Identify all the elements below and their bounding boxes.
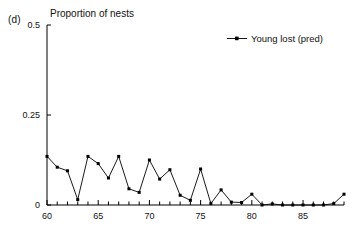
data-point-marker — [97, 162, 100, 165]
legend-line-marker-icon — [227, 34, 247, 43]
axis-lines — [47, 25, 344, 205]
series-line-young-lost-pred — [47, 156, 344, 205]
legend-label-young-lost-pred: Young lost (pred) — [251, 33, 323, 44]
data-point-marker — [240, 201, 243, 204]
data-point-marker — [271, 202, 274, 205]
data-point-marker — [250, 193, 253, 196]
chart-page: (d) Proportion of nests 0.5 0.25 0 Young… — [0, 0, 351, 240]
data-point-marker — [76, 198, 79, 201]
data-point-marker — [291, 204, 294, 207]
x-axis-tick-label: 85 — [291, 211, 315, 221]
data-point-marker — [199, 168, 202, 171]
data-point-marker — [127, 187, 130, 190]
data-point-marker — [343, 193, 346, 196]
data-point-marker — [158, 178, 161, 181]
data-point-marker — [261, 204, 264, 207]
data-point-marker — [332, 202, 335, 205]
y-axis-ticks — [47, 25, 51, 205]
x-axis-tick-label: 65 — [86, 211, 110, 221]
legend: Young lost (pred) — [227, 33, 323, 44]
data-point-marker — [107, 177, 110, 180]
data-point-marker — [312, 204, 315, 207]
data-point-marker — [189, 199, 192, 202]
data-point-marker — [168, 168, 171, 171]
data-point-marker — [117, 155, 120, 158]
data-point-marker — [322, 204, 325, 207]
x-axis-tick-label: 60 — [35, 211, 59, 221]
data-point-marker — [302, 204, 305, 207]
series-markers-young-lost-pred — [46, 155, 346, 207]
data-point-marker — [66, 169, 69, 172]
data-point-marker — [179, 194, 182, 197]
data-point-marker — [220, 188, 223, 191]
data-point-marker — [230, 201, 233, 204]
data-point-marker — [138, 191, 141, 194]
data-point-marker — [86, 155, 89, 158]
x-axis-tick-label: 80 — [240, 211, 264, 221]
data-point-marker — [209, 202, 212, 205]
x-axis-tick-label: 75 — [189, 211, 213, 221]
data-point-marker — [281, 204, 284, 207]
data-point-marker — [46, 155, 49, 158]
data-point-marker — [56, 166, 59, 169]
x-axis-tick-label: 70 — [137, 211, 161, 221]
x-axis-ticks — [47, 200, 344, 205]
data-point-marker — [148, 159, 151, 162]
